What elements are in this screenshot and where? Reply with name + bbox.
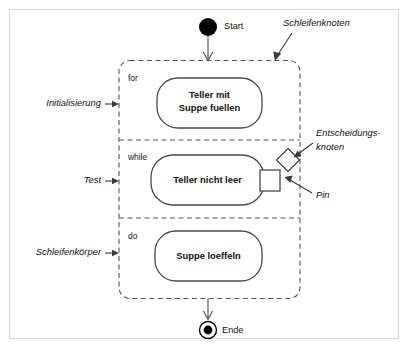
diagram-canvas: Start for Teller mit Suppe fuellen while… (0, 0, 408, 357)
annotation-arrowhead-test (112, 178, 119, 184)
annotation-schleifenkoerper: Schleifenkörper (36, 246, 102, 257)
annotation-pin: Pin (316, 189, 330, 200)
annotation-leader-schleifenknoten (277, 33, 292, 56)
annotation-leader-pin (290, 180, 312, 193)
annotation-schleifenknoten: Schleifenknoten (283, 17, 350, 28)
annotation-arrowhead-schleifenknoten (273, 51, 281, 61)
start-label: Start (224, 21, 244, 31)
annotation-arrowhead-pin (285, 175, 293, 183)
annotation-entscheidungsknoten-line1: Entscheidungs- (316, 127, 381, 138)
decision-node-icon[interactable] (277, 149, 300, 172)
end-label: Ende (222, 325, 243, 335)
annotation-entscheidungsknoten-line2: knoten (316, 141, 344, 152)
annotation-initialisierung: Initialisierung (46, 97, 102, 108)
annotation-test: Test (84, 174, 102, 185)
action-node-label-line1: Teller mit (189, 89, 230, 100)
end-node-inner-dot (204, 326, 213, 335)
action-node-label-teller-nicht-leer: Teller nicht leer (173, 174, 242, 185)
section-keyword-for: for (128, 73, 138, 83)
start-node-icon (199, 18, 217, 36)
action-node-label-suppe-loeffeln: Suppe loeffeln (176, 250, 241, 261)
section-keyword-do: do (128, 231, 138, 241)
annotation-arrowhead-initialisierung (112, 101, 119, 107)
pin-icon[interactable] (260, 170, 280, 191)
action-node-label-line2: Suppe fuellen (179, 102, 241, 113)
section-keyword-while: while (127, 152, 147, 162)
annotation-arrowhead-schleifenkoerper (112, 250, 119, 256)
